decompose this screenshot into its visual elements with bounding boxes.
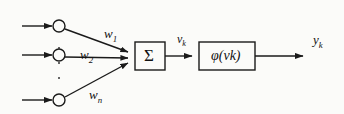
weight-label-1: w1	[104, 27, 117, 43]
neuron-diagram-figure: w1 w2 wn Σ φ(vk) vk yk	[0, 0, 344, 114]
synapse-node-n	[53, 94, 65, 106]
ellipsis-dot-2	[58, 62, 60, 64]
ellipsis-dot-1	[58, 47, 60, 49]
weight-line-2	[65, 57, 128, 58]
diagram-canvas	[0, 0, 344, 114]
output-signal-label: yk	[313, 33, 323, 49]
weight-label-2: w2	[80, 48, 93, 64]
synapse-node-2	[53, 49, 65, 61]
weight-label-n: wn	[89, 88, 102, 104]
synapse-node-1	[53, 20, 65, 32]
sigma-symbol: Σ	[144, 47, 154, 64]
input-arrows-group	[22, 26, 52, 100]
weight-line-1	[65, 29, 128, 52]
induced-local-field-label: vk	[177, 33, 186, 49]
phi-symbol: φ(vk)	[211, 49, 241, 63]
ellipsis-dot-3	[58, 77, 60, 79]
